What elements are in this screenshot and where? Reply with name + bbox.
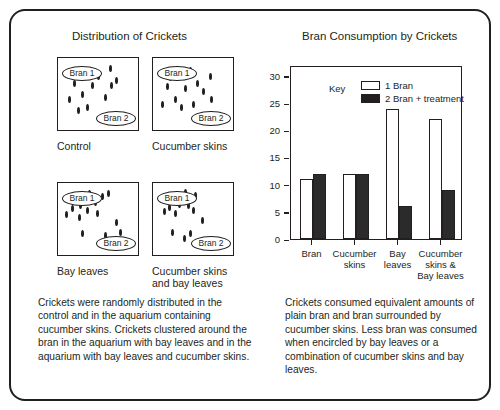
cricket-marker xyxy=(77,107,80,114)
right-panel-title: Bran Consumption by Crickets xyxy=(302,30,457,42)
bar-2-bran-treatment xyxy=(356,174,369,239)
bar-2-bran-treatment xyxy=(399,206,412,239)
y-tick-mark xyxy=(284,104,289,105)
cricket-marker xyxy=(202,88,205,95)
cricket-marker xyxy=(189,230,192,237)
cricket-marker xyxy=(115,219,118,226)
cricket-marker xyxy=(183,235,186,242)
bran-1-label: Bran 1 xyxy=(157,191,197,206)
figure-page: Distribution of Crickets Bran Consumptio… xyxy=(0,0,500,410)
legend-label-2-bran-treatment: 2 Bran + treatment xyxy=(385,93,464,104)
bran-2-label: Bran 2 xyxy=(191,111,231,126)
y-tick-label: 5 xyxy=(264,207,280,218)
y-tick-label: 0 xyxy=(264,234,280,245)
y-tick-mark xyxy=(284,131,289,132)
bran-2-label: Bran 2 xyxy=(96,111,136,126)
cricket-marker xyxy=(91,82,94,89)
cricket-marker xyxy=(209,73,212,80)
legend-label-1-bran: 1 Bran xyxy=(385,80,413,91)
cricket-marker xyxy=(107,190,110,197)
bran-1-label: Bran 1 xyxy=(157,66,197,81)
aquarium-label-bay-leaves: Bay leaves xyxy=(57,265,108,277)
y-tick-mark xyxy=(284,240,289,241)
y-tick-label: 15 xyxy=(264,152,280,163)
cricket-marker xyxy=(110,82,113,89)
left-panel-title: Distribution of Crickets xyxy=(72,30,187,42)
cricket-marker xyxy=(192,207,195,214)
cricket-marker xyxy=(81,230,84,237)
cricket-marker xyxy=(201,217,204,224)
left-caption: Crickets were randomly distributed in th… xyxy=(38,296,253,363)
cricket-marker xyxy=(192,101,195,108)
bar-2-bran-treatment xyxy=(442,190,455,239)
cricket-marker xyxy=(78,214,81,221)
right-caption: Crickets consumed equivalent amounts of … xyxy=(285,296,480,376)
y-tick-mark xyxy=(284,185,289,186)
bran-consumption-chart: Key 1 Bran 2 Bran + treatment 0510152025… xyxy=(265,55,470,285)
aquarium-label-control: Control xyxy=(57,140,91,152)
aquarium-cucumber-skins: Bran 1Bran 2 xyxy=(152,57,234,131)
cricket-marker xyxy=(73,80,76,87)
bar-1-bran xyxy=(429,119,442,239)
bran-1-label: Bran 1 xyxy=(62,191,102,206)
y-tick-mark xyxy=(284,212,289,213)
y-tick-label: 10 xyxy=(264,180,280,191)
cricket-marker xyxy=(174,96,177,103)
cricket-marker xyxy=(196,80,199,87)
x-tick-mark xyxy=(311,240,312,245)
cricket-marker xyxy=(86,207,89,214)
cricket-marker xyxy=(81,91,84,98)
cricket-marker xyxy=(210,96,213,103)
aquarium-control: Bran 1Bran 2 xyxy=(57,57,139,131)
cricket-marker xyxy=(65,211,68,218)
cricket-marker xyxy=(180,104,183,111)
cricket-marker xyxy=(86,104,89,111)
x-tick-label: Cucumber skins & Bay leaves xyxy=(411,248,471,281)
cricket-marker xyxy=(104,94,107,101)
y-tick-mark xyxy=(284,76,289,77)
bar-2-bran-treatment xyxy=(313,174,326,239)
x-tick-mark xyxy=(397,240,398,245)
bar-1-bran xyxy=(386,109,399,240)
bran-2-label: Bran 2 xyxy=(96,236,136,251)
bar-1-bran xyxy=(300,179,313,239)
legend-swatch-2-bran-treatment xyxy=(361,94,380,103)
cricket-marker xyxy=(184,85,187,92)
cricket-marker xyxy=(71,205,74,212)
bran-2-label: Bran 2 xyxy=(191,236,231,251)
aquarium-cucumber-skins-and-bay-leaves: Bran 1Bran 2 xyxy=(152,182,234,256)
y-tick-label: 20 xyxy=(264,125,280,136)
aquarium-bay-leaves: Bran 1Bran 2 xyxy=(57,182,139,256)
cricket-marker xyxy=(166,83,169,90)
bran-1-label: Bran 1 xyxy=(62,66,102,81)
cricket-marker xyxy=(161,101,164,108)
cricket-marker xyxy=(163,208,166,215)
x-tick-mark xyxy=(354,240,355,245)
bar-1-bran xyxy=(343,174,356,239)
x-tick-mark xyxy=(440,240,441,245)
cricket-marker xyxy=(96,210,99,217)
y-tick-label: 25 xyxy=(264,98,280,109)
cricket-marker xyxy=(171,229,174,236)
cricket-marker xyxy=(119,229,122,236)
aquarium-label-cucumber-skins: Cucumber skins xyxy=(152,140,227,152)
cricket-marker xyxy=(68,96,71,103)
y-tick-label: 30 xyxy=(264,71,280,82)
cricket-marker xyxy=(109,65,112,72)
aquarium-label-cucumber-skins-and-bay-leaves: Cucumber skins and bay leaves xyxy=(152,265,227,289)
legend-title: Key xyxy=(329,83,345,94)
legend-swatch-1-bran xyxy=(361,81,380,90)
cricket-marker xyxy=(174,210,177,217)
cricket-marker xyxy=(115,77,118,84)
y-tick-mark xyxy=(284,158,289,159)
chart-plot-frame: Key 1 Bran 2 Bran + treatment xyxy=(290,66,462,240)
